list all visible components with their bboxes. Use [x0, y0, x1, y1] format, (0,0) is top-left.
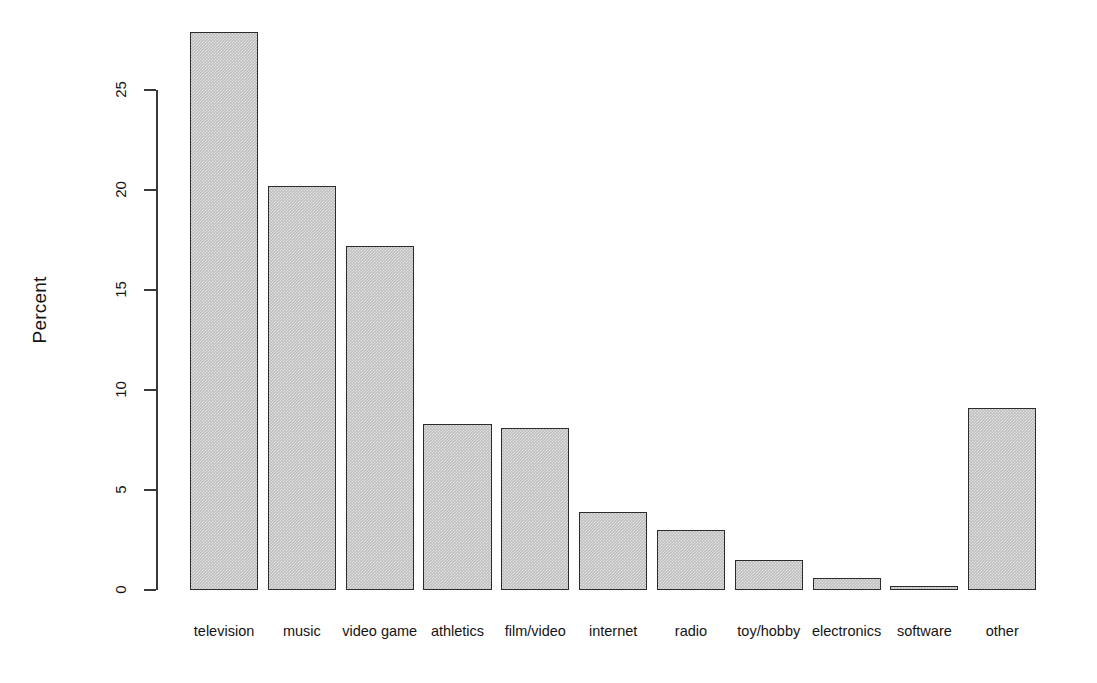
x-axis-category-label: toy/hobby: [737, 623, 800, 639]
bar: [735, 560, 803, 590]
x-axis-category-label: television: [194, 623, 254, 639]
bar: [190, 32, 258, 590]
bar-chart-figure: Percent 0510152025 televisionmusicvideo …: [0, 0, 1097, 683]
x-axis-category-label: music: [283, 623, 321, 639]
bar: [346, 246, 414, 590]
bar: [890, 586, 958, 590]
bar: [423, 424, 491, 590]
bar: [268, 186, 336, 590]
plot-area: televisionmusicvideo gameathleticsfilm/v…: [0, 0, 1097, 683]
bar: [579, 512, 647, 590]
x-axis-category-label: film/video: [505, 623, 566, 639]
x-axis-category-label: software: [897, 623, 952, 639]
x-axis-category-label: video game: [342, 623, 417, 639]
bar: [657, 530, 725, 590]
x-axis-category-label: athletics: [431, 623, 484, 639]
bar: [813, 578, 881, 590]
x-axis-category-label: internet: [589, 623, 637, 639]
bar: [968, 408, 1036, 590]
x-axis-category-label: radio: [675, 623, 707, 639]
x-axis-category-label: electronics: [812, 623, 881, 639]
x-axis-category-label: other: [986, 623, 1019, 639]
bar: [501, 428, 569, 590]
